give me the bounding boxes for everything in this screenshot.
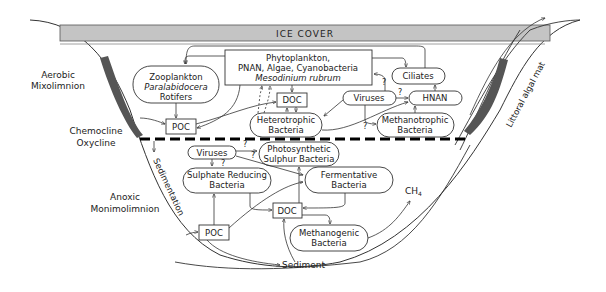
doc-lower-label: DOC: [277, 206, 296, 216]
zone-anoxic-1: Anoxic: [110, 192, 140, 202]
sediment-label: Sediment: [282, 260, 325, 270]
zooplankton-line1: Zooplankton: [149, 72, 202, 82]
doc-upper-label: DOC: [282, 95, 301, 105]
ciliates-label: Ciliates: [402, 71, 434, 81]
zone-aerobic-2: Mixolimnion: [31, 81, 85, 91]
zooplankton-line3: Rotifers: [160, 92, 193, 102]
methanogenic-line2: Bacteria: [311, 238, 346, 248]
svg-text:?: ?: [221, 159, 225, 168]
zone-chemocline-2: Oxycline: [77, 138, 116, 148]
zone-anoxic-2: Monimolimnion: [91, 204, 160, 214]
phytoplankton-line2: PNAN, Algae, Cyanobacteria: [238, 63, 358, 73]
phytoplankton-line1: Phytoplankton,: [266, 53, 330, 63]
svg-text:?: ?: [251, 151, 255, 160]
svg-text:?: ?: [382, 78, 386, 87]
littoral-algal-mat-label: Littoral algal mat: [504, 59, 547, 129]
poc-upper-label: POC: [172, 122, 190, 132]
fermentative-line2: Bacteria: [331, 180, 366, 190]
zone-chemocline-1: Chemocline: [70, 126, 123, 136]
svg-text:?: ?: [363, 122, 367, 131]
heterotrophic-line2: Bacteria: [268, 125, 303, 135]
fermentative-line1: Fermentative: [321, 170, 377, 180]
viruses-lower-label: Viruses: [197, 148, 229, 158]
sulphate-reducing-line2: Bacteria: [209, 180, 244, 190]
zooplankton-line2: Paralabidocera: [144, 82, 208, 92]
hnan-label: HNAN: [423, 93, 448, 103]
ice-cover-label: ICE COVER: [276, 29, 334, 39]
lake-food-web-diagram: ICE COVER Aerobic Mixolimnion Chemocline…: [0, 0, 606, 292]
sulphate-reducing-line1: Sulphate Reducing: [187, 170, 267, 180]
methanogenic-line1: Methanogenic: [299, 228, 359, 238]
svg-text:?: ?: [398, 88, 402, 97]
photosynthetic-line2: Sulphur Bacteria: [264, 154, 335, 164]
poc-lower-label: POC: [205, 228, 223, 238]
viruses-upper-label: Viruses: [354, 93, 386, 103]
heterotrophic-line1: Heterotrophic: [257, 115, 316, 125]
methanotrophic-line1: Methanotrophic: [382, 115, 449, 125]
right-algal-mat: [464, 58, 508, 135]
svg-text:?: ?: [243, 140, 247, 149]
methanotrophic-line2: Bacteria: [397, 125, 432, 135]
ch4-label: CH4: [405, 186, 422, 197]
zone-aerobic-1: Aerobic: [41, 70, 75, 80]
phytoplankton-line3: Mesodinium rubrum: [255, 73, 341, 83]
photosynthetic-line1: Photosynthetic: [267, 144, 331, 154]
